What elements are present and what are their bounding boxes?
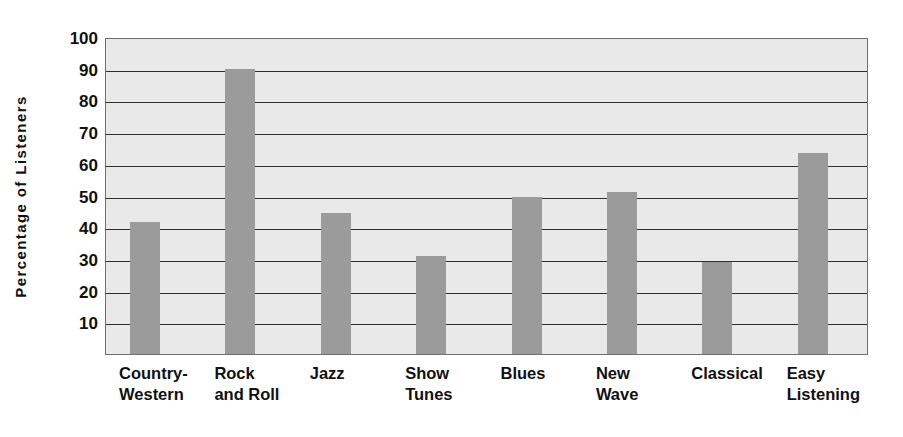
bar — [798, 153, 828, 354]
x-axis-category-label: Easy Listening — [787, 363, 860, 405]
y-axis-tick-label: 40 — [48, 220, 98, 237]
bar — [416, 256, 446, 354]
y-axis-tick-labels: 100908070605040302010 — [48, 38, 98, 355]
x-axis-category-label: Classical — [691, 363, 763, 384]
bar — [607, 192, 637, 354]
x-axis-category-label: Rock and Roll — [214, 363, 279, 405]
bar-series — [106, 39, 867, 354]
plot-area — [105, 38, 868, 355]
bar — [225, 69, 255, 354]
y-axis-tick-label: 100 — [48, 30, 98, 47]
x-axis-category-label: Blues — [501, 363, 546, 384]
y-axis-title: Percentage of Listeners — [12, 95, 29, 297]
y-axis-tick-label: 70 — [48, 125, 98, 142]
x-axis-category-label: New Wave — [596, 363, 639, 405]
y-axis-title-container: Percentage of Listeners — [0, 38, 40, 355]
bar — [130, 222, 160, 354]
x-axis-category-labels: Country- WesternRock and RollJazzShow Tu… — [105, 363, 868, 433]
bar — [512, 197, 542, 354]
bar — [321, 213, 351, 354]
bar — [702, 262, 732, 354]
y-axis-tick-label: 50 — [48, 188, 98, 205]
y-axis-tick-label: 30 — [48, 251, 98, 268]
x-axis-category-label: Show Tunes — [405, 363, 452, 405]
y-axis-tick-label: 80 — [48, 93, 98, 110]
x-axis-category-label: Jazz — [310, 363, 345, 384]
y-axis-tick-label: 60 — [48, 156, 98, 173]
y-axis-tick-label: 10 — [48, 315, 98, 332]
x-axis-category-label: Country- Western — [119, 363, 188, 405]
y-axis-tick-label: 90 — [48, 61, 98, 78]
bar-chart-figure: Percentage of Listeners 1009080706050403… — [0, 0, 903, 437]
y-axis-tick-label: 20 — [48, 283, 98, 300]
